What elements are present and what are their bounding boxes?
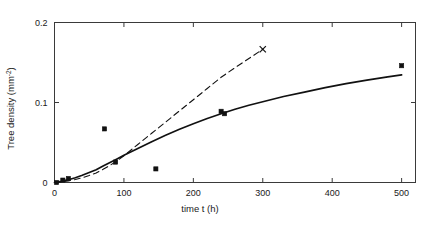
data-point — [61, 178, 65, 182]
data-point — [102, 127, 106, 131]
y-axis-tick-label: 0.2 — [35, 18, 48, 28]
data-point — [154, 167, 158, 171]
series-line-model-dashed — [55, 49, 263, 182]
data-point — [54, 180, 58, 184]
x-axis-tick-label: 300 — [255, 188, 270, 198]
x-axis-tick-label: 500 — [394, 188, 409, 198]
data-point — [66, 176, 70, 180]
y-axis-title-text: Tree density (mm-2) — [5, 67, 16, 150]
plot-frame — [55, 23, 416, 183]
x-axis-tick-label: 100 — [116, 188, 131, 198]
data-point — [400, 64, 404, 68]
chart-figure: 010020030040050000.10.2time t (h)Tree de… — [0, 0, 440, 230]
y-axis-tick-label: 0.1 — [35, 98, 48, 108]
x-axis-tick-label: 200 — [186, 188, 201, 198]
data-point — [113, 160, 117, 164]
data-point — [222, 112, 226, 116]
x-axis-title: time t (h) — [181, 203, 218, 214]
tree-density-vs-time-chart: 010020030040050000.10.2time t (h)Tree de… — [0, 0, 440, 230]
x-axis-tick-label: 0 — [52, 188, 57, 198]
x-axis-tick-label: 400 — [325, 188, 340, 198]
y-axis-title: Tree density (mm-2) — [5, 67, 16, 150]
y-axis-tick-label: 0 — [42, 178, 47, 188]
